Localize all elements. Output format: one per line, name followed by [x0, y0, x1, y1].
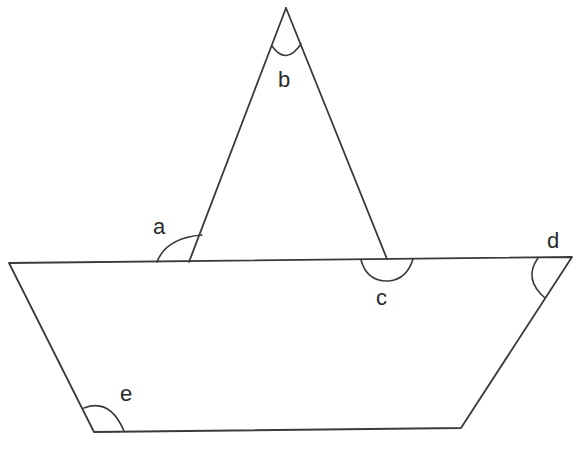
angle-label-c: c — [376, 285, 387, 310]
geometry-diagram: a b c d e — [0, 0, 576, 467]
angle-label-e: e — [120, 381, 132, 406]
angle-arc-e — [84, 406, 124, 431]
angle-label-a: a — [153, 214, 166, 239]
angle-arc-d — [532, 258, 545, 298]
angle-label-b: b — [278, 67, 290, 92]
angle-arc-c — [361, 259, 413, 281]
triangle-right-side — [286, 8, 387, 259]
angle-arc-a — [157, 235, 202, 262]
angle-label-d: d — [547, 228, 559, 253]
angle-arc-b — [272, 44, 301, 56]
